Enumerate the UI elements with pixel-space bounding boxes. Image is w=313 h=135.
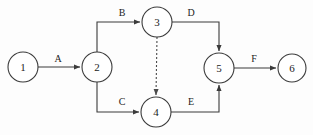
network-diagram-canvas: A B C D E F 1 2 3 4	[0, 0, 313, 135]
edge-label-d: D	[187, 7, 194, 18]
edge-label-a: A	[54, 53, 62, 64]
activity-on-arrow-network-graph: A B C D E F 1 2 3 4	[0, 0, 313, 135]
node-label-1: 1	[20, 61, 26, 73]
edge-path-dummy-dashed	[156, 37, 157, 95]
node-1[interactable]: 1	[8, 52, 38, 82]
edge-label-e: E	[188, 96, 194, 107]
edge-label-f: F	[251, 53, 257, 64]
node-3[interactable]: 3	[142, 7, 172, 37]
node-label-4: 4	[153, 106, 159, 118]
edge-label-c: C	[119, 96, 126, 107]
node-4[interactable]: 4	[141, 97, 171, 127]
edge-path-e	[171, 85, 219, 112]
edge-path-b	[97, 22, 140, 52]
node-label-2: 2	[94, 61, 100, 73]
node-6[interactable]: 6	[278, 54, 306, 82]
edge-label-b: B	[119, 7, 126, 18]
node-label-6: 6	[289, 62, 295, 74]
node-label-5: 5	[216, 62, 222, 74]
node-2[interactable]: 2	[82, 52, 112, 82]
node-5[interactable]: 5	[204, 53, 234, 83]
edge-path-d	[172, 22, 219, 51]
node-label-3: 3	[154, 16, 160, 28]
